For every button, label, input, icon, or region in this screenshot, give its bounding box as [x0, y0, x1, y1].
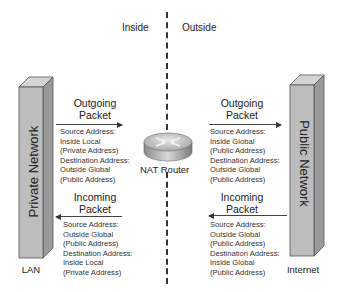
left-incoming-title-line1: Incoming	[60, 191, 130, 203]
nat-router-label: NAT Router	[140, 164, 189, 175]
address-line: (Public Address)	[210, 268, 280, 278]
left-outgoing-title-line2: Packet	[60, 109, 130, 121]
address-line: Source Address:	[210, 127, 280, 137]
right-outgoing-title-line1: Outgoing	[207, 97, 277, 109]
right-incoming-title-line2: Packet	[207, 203, 277, 215]
address-line: Destination Address:	[63, 249, 133, 259]
address-line: Inside Local	[63, 258, 133, 268]
address-line: (Private Address)	[63, 268, 133, 278]
address-line: (Private Address)	[60, 146, 130, 156]
address-line: Inside Local	[60, 137, 130, 147]
right-incoming-title: Incoming Packet	[207, 191, 277, 215]
inside-outside-divider-top	[166, 12, 168, 130]
left-outgoing-address-info: Source Address: Inside Local (Private Ad…	[60, 127, 130, 185]
router-icon	[142, 128, 194, 164]
address-line: Inside Global	[210, 258, 280, 268]
address-line: Source Address:	[60, 127, 130, 137]
address-line: (Public Address)	[210, 239, 280, 249]
right-incoming-arrow-icon	[209, 215, 287, 216]
address-line: (Public Address)	[210, 146, 280, 156]
right-outgoing-title-line2: Packet	[207, 109, 277, 121]
address-line: (Public Address)	[210, 175, 280, 185]
private-network-label: Private Network	[26, 112, 41, 232]
address-line: (Public Address)	[60, 175, 130, 185]
address-line: Outside Global	[60, 165, 130, 175]
address-line: Outside Global	[63, 230, 133, 240]
right-incoming-address-info: Source Address: Outside Global (Public A…	[210, 220, 280, 278]
address-line: Outside Global	[210, 230, 280, 240]
internet-label: Internet	[280, 264, 326, 275]
inside-zone-label: Inside	[122, 22, 149, 33]
right-outgoing-address-info: Source Address: Inside Global (Public Ad…	[210, 127, 280, 185]
left-outgoing-title: Outgoing Packet	[60, 97, 130, 121]
left-incoming-address-info: Source Address: Outside Global (Public A…	[63, 220, 133, 278]
address-line: Outside Global	[210, 165, 280, 175]
left-outgoing-title-line1: Outgoing	[60, 97, 130, 109]
address-line: Source Address:	[63, 220, 133, 230]
address-line: Destination Address:	[60, 156, 130, 166]
address-line: Inside Global	[210, 137, 280, 147]
address-line: Destination Address:	[210, 249, 280, 259]
right-outgoing-arrow-icon	[209, 124, 281, 125]
right-outgoing-title: Outgoing Packet	[207, 97, 277, 121]
lan-label: LAN	[16, 264, 46, 275]
address-line: Source Address:	[210, 220, 280, 230]
public-network-label: Public Network	[297, 104, 312, 224]
address-line: (Public Address)	[63, 239, 133, 249]
left-incoming-title-line2: Packet	[60, 203, 130, 215]
inside-outside-divider-bottom	[166, 172, 168, 284]
outside-zone-label: Outside	[182, 22, 216, 33]
left-incoming-title: Incoming Packet	[60, 191, 130, 215]
left-incoming-arrow-icon	[56, 216, 122, 217]
right-incoming-title-line1: Incoming	[207, 191, 277, 203]
address-line: Destination Address:	[210, 156, 280, 166]
left-outgoing-arrow-icon	[56, 124, 122, 125]
